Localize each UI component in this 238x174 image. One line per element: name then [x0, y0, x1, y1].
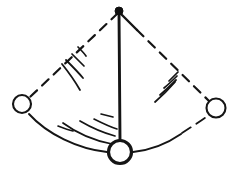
motion-line-lower-left-3: [94, 119, 117, 129]
pendulum-diagram-canvas: [0, 0, 238, 174]
motion-line-lower-left-5: [101, 114, 113, 117]
pendulum-rod-rest: [119, 12, 120, 141]
pendulum-rod-right-dashed: [137, 30, 209, 101]
motion-line-upper-left-1: [62, 64, 80, 90]
motion-line-lower-left-2: [80, 121, 115, 136]
swing-arc-right-solid: [133, 134, 181, 152]
swing-arc-right-dashed: [182, 115, 209, 133]
pendulum-bob-right: [207, 99, 226, 118]
pendulum-bob-rest: [109, 141, 132, 164]
motion-line-upper-right-2: [160, 80, 176, 95]
motion-line-upper-left-3: [72, 54, 84, 66]
pendulum-bob-left: [13, 95, 31, 113]
pendulum-rod-right-solid: [120, 13, 137, 30]
pivot-point-dot: [115, 7, 123, 15]
pendulum-figure: [0, 0, 238, 174]
